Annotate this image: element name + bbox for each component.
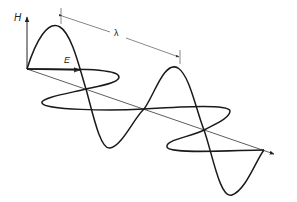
e-axis-label: E [64, 56, 70, 65]
em-wave-figure [0, 0, 297, 202]
propagation-axis [27, 69, 274, 154]
h-wave [27, 26, 264, 196]
em-wave-diagram: H E λ [0, 0, 297, 202]
wavelength-label: λ [114, 29, 119, 38]
wavelength-dimension [61, 8, 180, 64]
h-axis-label: H [14, 13, 21, 23]
